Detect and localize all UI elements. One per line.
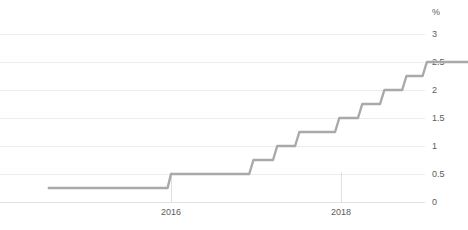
chart-container: 00.511.522.53 20162018 % <box>0 0 468 230</box>
plot-area: 00.511.522.53 20162018 % <box>0 0 468 230</box>
series-line-policy-rate <box>48 62 468 188</box>
series-plot <box>0 0 468 230</box>
